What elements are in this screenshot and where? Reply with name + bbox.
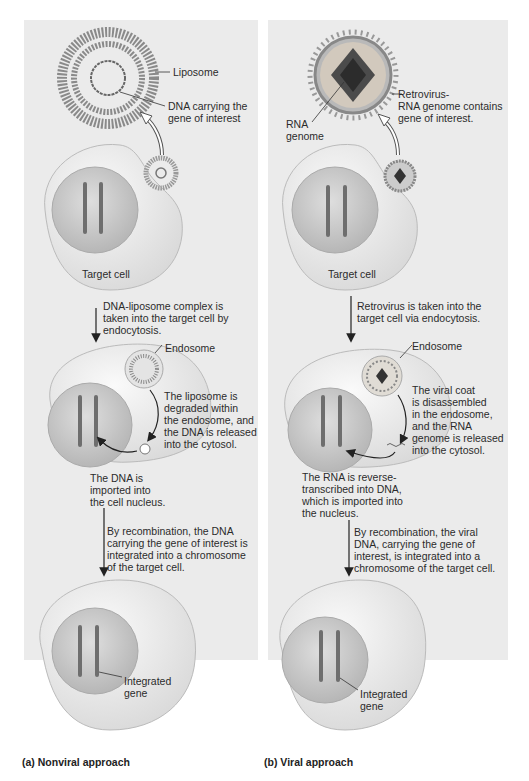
label-step1-b: Retrovirus is taken into the target cell…: [357, 300, 481, 324]
label-liposome: Liposome: [173, 66, 219, 78]
cell-integrated-a: [40, 580, 196, 730]
label-target-cell-b: Target cell: [328, 268, 376, 280]
label-rna-genome: RNA genome: [286, 118, 324, 142]
label-step3-a: The DNA is imported into the cell nucleu…: [90, 472, 165, 508]
label-step3-b: The RNA is reverse- transcribed into DNA…: [302, 471, 403, 519]
label-step4-a: By recombination, the DNA carrying the g…: [107, 525, 248, 573]
label-dna-gene: DNA carrying the gene of interest: [168, 100, 247, 124]
label-integrated-gene-a: Integrated gene: [124, 675, 171, 699]
label-step1-a: DNA-liposome complex is taken into the t…: [103, 300, 229, 336]
caption-nonviral: (a) Nonviral approach: [22, 756, 130, 768]
label-step2-b: The viral coat is disassembled in the en…: [412, 384, 504, 456]
label-retrovirus: Retrovirus- RNA genome contains gene of …: [398, 88, 502, 124]
caption-viral: (b) Viral approach: [264, 756, 353, 768]
label-step2-a: The liposome is degraded within the endo…: [164, 390, 257, 450]
label-integrated-gene-b: Integrated gene: [360, 688, 407, 712]
label-endosome-b: Endosome: [412, 340, 462, 352]
label-step4-b: By recombination, the viral DNA, carryin…: [354, 526, 495, 574]
label-target-cell-a: Target cell: [82, 268, 130, 280]
label-endosome-a: Endosome: [165, 342, 215, 354]
